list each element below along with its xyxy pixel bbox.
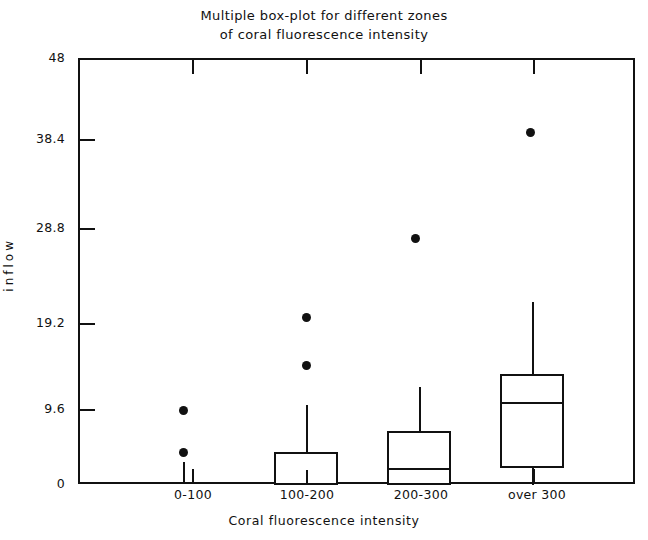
group-separator-top-2 [306, 58, 308, 74]
chart-title-line-2: of coral fluorescence intensity [0, 25, 648, 44]
box-2-median [306, 470, 308, 485]
box-4-whisker-upper [532, 302, 534, 376]
box-plot-figure: Multiple box-plot for different zones of… [0, 0, 648, 540]
group-separator-top-4 [533, 58, 535, 74]
x-tick-label-200-300: 200-300 [364, 487, 478, 502]
chart-title-line-1: Multiple box-plot for different zones [0, 6, 648, 25]
y-axis-label: inflow [2, 238, 28, 292]
box-4-body [500, 374, 564, 468]
x-axis-label: Coral fluorescence intensity [0, 513, 648, 528]
box-2-outlier-1 [302, 313, 311, 322]
box-3-body [387, 431, 451, 485]
box-1-outlier-1 [179, 406, 188, 415]
y-tick-label-19.2: 19.2 [36, 315, 65, 330]
y-tick-label-9.6: 9.6 [44, 401, 65, 416]
box-1-outlier-2 [179, 448, 188, 457]
box-3-median [387, 468, 451, 470]
box-2-whisker-upper [306, 405, 308, 453]
y-tick-label-38.4: 38.4 [36, 131, 65, 146]
x-tick-label-100-200: 100-200 [250, 487, 364, 502]
y-tick-label-0: 0 [57, 476, 65, 491]
box-4-whisker-lower [532, 466, 534, 485]
box-4-outlier-1 [526, 128, 535, 137]
x-tick-label-0-100: 0-100 [136, 487, 250, 502]
group-separator-top-1 [192, 58, 194, 74]
chart-title: Multiple box-plot for different zones of… [0, 6, 648, 44]
box-4-median [500, 402, 564, 404]
group-separator-top-3 [420, 58, 422, 74]
y-tick-label-48: 48 [48, 50, 65, 65]
x-tick-label-over-300: over 300 [477, 487, 597, 502]
box-2-outlier-2 [302, 361, 311, 370]
box-3-outlier-1 [411, 234, 420, 243]
y-tick-19.2 [78, 323, 95, 325]
box-3-whisker-upper [419, 387, 421, 433]
group-separator-bottom-1 [192, 469, 194, 484]
y-tick-38.4 [78, 139, 95, 141]
y-tick-label-28.8: 28.8 [36, 220, 65, 235]
box-1-whisker [183, 462, 185, 484]
y-tick-9.6 [78, 409, 95, 411]
y-tick-28.8 [78, 228, 95, 230]
